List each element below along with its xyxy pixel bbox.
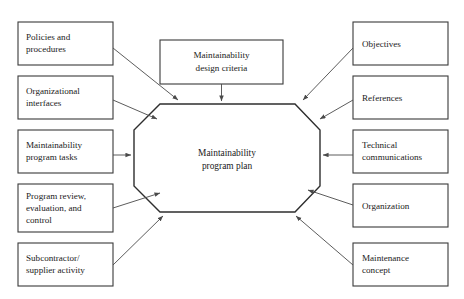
- node-label-line1: Program review,: [26, 191, 86, 201]
- connector-organization-to-hub: [308, 190, 353, 205]
- diagram-canvas: Maintainability program plan Maintainabi…: [0, 0, 464, 299]
- connector-organizational-interfaces-to-hub: [113, 100, 157, 119]
- hub-label-line2: program plan: [202, 161, 253, 171]
- hub-node: Maintainability program plan: [134, 104, 320, 212]
- node-organizational-interfaces[interactable]: Organizational interfaces: [18, 76, 113, 119]
- node-policies-and-procedures[interactable]: Policies and procedures: [18, 22, 113, 65]
- connector-objectives-to-hub: [303, 48, 353, 100]
- node-maintainability-design-criteria[interactable]: Maintainability design criteria: [160, 40, 283, 84]
- node-label-line1: Maintainability: [26, 140, 83, 150]
- octagon-shape: [134, 104, 320, 212]
- node-program-review-evaluation-control[interactable]: Program review, evaluation, and control: [18, 184, 113, 232]
- node-label-line1: Maintainability: [193, 50, 250, 60]
- node-objectives[interactable]: Objectives: [353, 22, 448, 65]
- node-label-line2: interfaces: [26, 98, 62, 108]
- node-maintainability-program-tasks[interactable]: Maintainability program tasks: [18, 130, 113, 173]
- hub-label-line1: Maintainability: [198, 148, 256, 158]
- node-label-line1: Objectives: [362, 39, 401, 49]
- node-technical-communications[interactable]: Technical communications: [353, 130, 448, 173]
- node-label-line1: Maintenance: [362, 253, 409, 263]
- connector-subcontractor-to-hub: [113, 216, 163, 265]
- node-label-line2: concept: [362, 265, 391, 275]
- node-label-line2: procedures: [26, 44, 66, 54]
- maintainability-program-plan-diagram: Maintainability program plan Maintainabi…: [0, 0, 464, 299]
- node-label-line2: supplier activity: [26, 265, 85, 275]
- connector-maintenance-concept-to-hub: [296, 216, 353, 265]
- node-label-line3: control: [26, 215, 52, 225]
- node-label-line1: Technical: [362, 140, 398, 150]
- node-label-line1: Policies and: [26, 32, 71, 42]
- node-label-line2: evaluation, and: [26, 203, 82, 213]
- node-label-line2: design criteria: [196, 63, 248, 73]
- node-organization[interactable]: Organization: [353, 184, 448, 227]
- connector-references-to-hub: [320, 100, 353, 119]
- node-label-line1: References: [362, 93, 403, 103]
- node-label-line1: Organizational: [26, 86, 80, 96]
- node-label-line2: communications: [362, 152, 423, 162]
- node-label-line2: program tasks: [26, 152, 78, 162]
- node-references[interactable]: References: [353, 76, 448, 119]
- node-subcontractor-supplier-activity[interactable]: Subcontractor/ supplier activity: [18, 243, 113, 286]
- node-label-line1: Subcontractor/: [26, 253, 80, 263]
- node-maintenance-concept[interactable]: Maintenance concept: [353, 243, 448, 286]
- node-label-line1: Organization: [362, 201, 410, 211]
- node-box-rect: [160, 40, 283, 84]
